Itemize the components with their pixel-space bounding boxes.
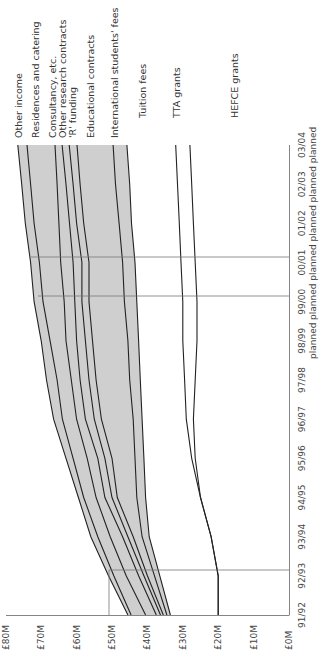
series-line <box>190 145 218 615</box>
label-tta: TTA grants <box>171 67 182 119</box>
category-tick-label: 03/04 <box>297 132 307 158</box>
series-line <box>176 145 219 615</box>
income-chart: £0M£10M£20M£30M£40M£50M£60M£70M£80M 91/9… <box>0 0 329 652</box>
category-tick-label: 98/99 <box>297 328 307 354</box>
category-sublabel: planned <box>308 244 318 280</box>
category-tick-label: 02/03 <box>297 171 307 197</box>
value-tick-label: £30M <box>178 625 188 650</box>
category-tick-label: 96/97 <box>297 406 307 432</box>
value-tick-label: £40M <box>142 625 152 650</box>
category-sublabel: planned <box>308 166 318 202</box>
category-tick-label: 99/00 <box>297 288 307 314</box>
category-tick-label: 92/93 <box>297 563 307 589</box>
category-tick-label: 91/92 <box>297 602 307 628</box>
value-tick-label: £50M <box>107 625 117 650</box>
category-tick-label: 00/01 <box>297 250 307 276</box>
category-sublabel: planned <box>308 284 318 320</box>
category-axis-ticks: 91/9292/9393/9494/9595/9696/9797/9898/99… <box>297 127 318 628</box>
category-sublabel: planned <box>308 323 318 359</box>
value-tick-label: £80M <box>1 625 11 650</box>
label-residences: Residences and catering <box>30 21 41 138</box>
value-tick-label: £10M <box>249 625 259 650</box>
label-educational: Educational contracts <box>85 35 96 138</box>
value-tick-label: £70M <box>36 625 46 650</box>
category-tick-label: 93/94 <box>297 523 307 549</box>
label-hefce: HEFCE grants <box>229 53 240 118</box>
label-tuition: Tuition fees <box>137 64 148 119</box>
category-tick-label: 95/96 <box>297 445 307 471</box>
category-tick-label: 01/02 <box>297 210 307 236</box>
label-other-income: Other income <box>13 73 24 138</box>
category-tick-label: 97/98 <box>297 367 307 393</box>
value-tick-label: £20M <box>213 625 223 650</box>
label-r-funding: 'R' funding <box>67 87 78 138</box>
value-tick-label: £0M <box>284 631 294 650</box>
label-international: International students' fees <box>109 7 120 138</box>
series-labels: Other income Residences and catering Con… <box>13 7 240 138</box>
category-tick-label: 94/95 <box>297 485 307 511</box>
value-axis-ticks: £0M£10M£20M£30M£40M£50M£60M£70M£80M <box>1 625 294 650</box>
category-sublabel: planned <box>308 205 318 241</box>
value-tick-label: £60M <box>72 625 82 650</box>
category-sublabel: planned <box>308 127 318 163</box>
